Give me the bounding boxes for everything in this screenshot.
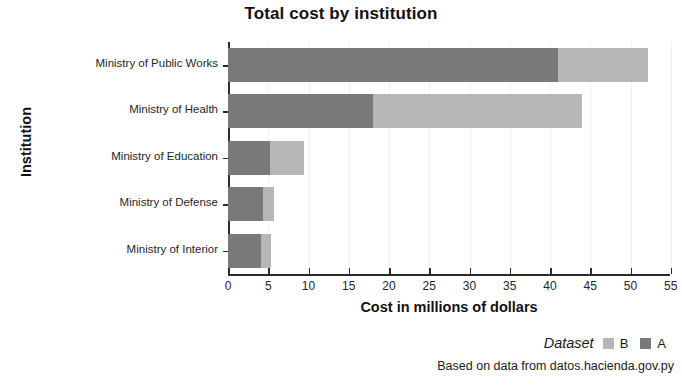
- bar-segment-b[interactable]: [263, 187, 274, 221]
- legend-swatch-icon: [603, 338, 614, 349]
- x-tick-label: 50: [616, 279, 646, 293]
- x-axis-title: Cost in millions of dollars: [228, 299, 670, 315]
- x-tick-mark: [429, 268, 431, 274]
- x-tick-label: 35: [495, 279, 525, 293]
- y-tick-mark: [223, 251, 228, 253]
- legend-entry[interactable]: A: [640, 336, 666, 351]
- bar-segment-b[interactable]: [270, 141, 304, 175]
- bar-segment-b[interactable]: [373, 94, 582, 128]
- x-tick-mark: [671, 268, 673, 274]
- x-tick-label: 20: [374, 279, 404, 293]
- chart-title: Total cost by institution: [0, 4, 682, 24]
- legend: Dataset BA: [0, 335, 666, 351]
- x-tick-label: 0: [213, 279, 243, 293]
- bar-segment-b[interactable]: [261, 234, 271, 268]
- x-axis-spine: [228, 274, 670, 276]
- x-tick-label: 55: [656, 279, 682, 293]
- x-tick-mark: [470, 268, 472, 274]
- bar-segment-a[interactable]: [228, 94, 373, 128]
- x-tick-label: 5: [253, 279, 283, 293]
- x-tick-mark: [268, 268, 270, 274]
- y-tick-mark: [223, 158, 228, 160]
- x-tick-label: 10: [294, 279, 324, 293]
- x-tick-mark: [590, 268, 592, 274]
- x-tick-mark: [631, 268, 633, 274]
- y-tick-mark: [223, 65, 228, 67]
- x-tick-mark: [389, 268, 391, 274]
- y-tick-label: Ministry of Public Works: [0, 57, 218, 69]
- x-tick-label: 25: [414, 279, 444, 293]
- x-tick-label: 15: [334, 279, 364, 293]
- x-tick-label: 45: [575, 279, 605, 293]
- x-tick-mark: [309, 268, 311, 274]
- bar-segment-a[interactable]: [228, 187, 263, 221]
- bar-segment-b[interactable]: [558, 48, 648, 82]
- x-tick-label: 40: [535, 279, 565, 293]
- legend-label: B: [620, 336, 629, 351]
- legend-entry[interactable]: B: [603, 336, 629, 351]
- x-tick-mark: [349, 268, 351, 274]
- bar-segment-a[interactable]: [228, 48, 558, 82]
- legend-entries: BA: [603, 336, 666, 351]
- legend-swatch-icon: [640, 338, 651, 349]
- x-tick-mark: [228, 268, 230, 274]
- y-tick-mark: [223, 204, 228, 206]
- bar-segment-a[interactable]: [228, 141, 270, 175]
- y-tick-label: Ministry of Interior: [0, 243, 218, 255]
- y-axis-title: Institution: [18, 72, 34, 212]
- x-tick-label: 30: [455, 279, 485, 293]
- y-tick-mark: [223, 111, 228, 113]
- legend-title: Dataset: [544, 335, 594, 351]
- chart-caption: Based on data from datos.hacienda.gov.py: [0, 359, 674, 373]
- x-tick-mark: [550, 268, 552, 274]
- x-tick-mark: [510, 268, 512, 274]
- legend-label: A: [657, 336, 666, 351]
- bar-segment-a[interactable]: [228, 234, 261, 268]
